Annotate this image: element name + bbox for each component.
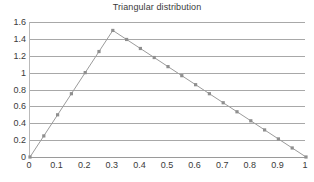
x-tick-label: 0.7	[216, 160, 229, 170]
data-point-marker	[166, 65, 169, 68]
data-point-marker	[139, 47, 142, 50]
data-point-marker	[125, 38, 128, 41]
plot-area	[29, 22, 305, 157]
data-point-marker	[153, 56, 156, 59]
x-tick-label: 0.2	[78, 160, 91, 170]
x-axis-tick-labels: 00.10.20.30.40.50.60.70.80.91	[29, 160, 305, 174]
y-tick-label: 0.8	[0, 85, 26, 95]
x-tick-label: 0.9	[271, 160, 284, 170]
chart-title: Triangular distribution	[0, 2, 314, 12]
x-tick-label: 0.3	[106, 160, 119, 170]
data-point-marker	[304, 155, 307, 158]
x-tick-label: 0.1	[50, 160, 63, 170]
y-axis-tick-labels: 00.20.40.60.811.21.41.6	[0, 22, 26, 157]
data-point-marker	[249, 119, 252, 122]
data-point-marker	[180, 74, 183, 77]
data-point-marker	[42, 134, 45, 137]
x-tick-label: 0	[26, 160, 31, 170]
data-point-marker	[194, 83, 197, 86]
y-tick-label: 0	[0, 152, 26, 162]
y-tick-label: 1	[0, 68, 26, 78]
series-triangular-pdf	[30, 22, 306, 157]
gridline-y	[30, 157, 305, 158]
x-tick-label: 0.8	[244, 160, 257, 170]
data-point-marker	[70, 92, 73, 95]
data-point-marker	[222, 101, 225, 104]
x-tick-label: 1	[302, 160, 307, 170]
x-tick-label: 0.4	[133, 160, 146, 170]
y-tick-label: 0.4	[0, 118, 26, 128]
y-tick-label: 0.6	[0, 101, 26, 111]
y-tick-label: 1.2	[0, 51, 26, 61]
data-point-marker	[235, 110, 238, 113]
x-tick-label: 0.6	[188, 160, 201, 170]
y-tick-label: 0.2	[0, 135, 26, 145]
data-point-marker	[28, 155, 31, 158]
x-tick-label: 0.5	[161, 160, 174, 170]
data-point-marker	[208, 92, 211, 95]
data-point-marker	[111, 29, 114, 32]
chart-container: Triangular distribution 00.20.40.60.811.…	[0, 0, 314, 182]
data-point-marker	[56, 113, 59, 116]
data-point-marker	[263, 128, 266, 131]
data-point-marker	[84, 71, 87, 74]
y-tick-label: 1.6	[0, 17, 26, 27]
data-point-marker	[291, 146, 294, 149]
y-tick-label: 1.4	[0, 34, 26, 44]
data-point-marker	[277, 137, 280, 140]
data-point-marker	[97, 50, 100, 53]
